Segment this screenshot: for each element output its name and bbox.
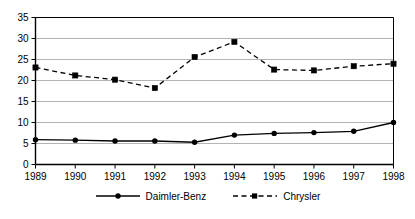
x-tick-label: 1997 bbox=[334, 172, 374, 182]
y-tick-label: 5 bbox=[23, 139, 29, 149]
x-tick-label: 1991 bbox=[95, 172, 135, 182]
legend-swatch bbox=[232, 190, 278, 202]
legend-marker bbox=[252, 193, 257, 198]
legend-marker bbox=[115, 193, 120, 198]
y-tick-label: 35 bbox=[17, 13, 28, 23]
data-point-marker bbox=[351, 129, 356, 134]
data-point-marker bbox=[232, 132, 237, 137]
y-tick-label: 10 bbox=[17, 118, 28, 128]
series-line bbox=[36, 42, 394, 88]
data-point-marker bbox=[351, 64, 356, 69]
data-point-marker bbox=[152, 138, 157, 143]
x-tick-label: 1995 bbox=[254, 172, 294, 182]
y-tick-label: 25 bbox=[17, 55, 28, 65]
data-point-marker bbox=[192, 54, 197, 59]
x-tick-label: 1993 bbox=[175, 172, 215, 182]
legend-entry-daimler-benz[interactable]: Daimler-Benz bbox=[95, 190, 207, 202]
x-tick-label: 1989 bbox=[16, 172, 56, 182]
series-daimler-benz bbox=[33, 120, 396, 145]
data-point-marker bbox=[33, 65, 38, 70]
legend-swatch bbox=[95, 190, 141, 202]
y-tick-label: 15 bbox=[17, 97, 28, 107]
legend-entry-chrysler[interactable]: Chrysler bbox=[232, 190, 320, 202]
gridlines bbox=[36, 18, 394, 144]
data-point-marker bbox=[311, 130, 316, 135]
line-chart: 05101520253035 1989199019911992199319941… bbox=[0, 0, 415, 219]
data-point-marker bbox=[33, 137, 38, 142]
data-point-marker bbox=[73, 137, 78, 142]
data-point-marker bbox=[311, 68, 316, 73]
legend-label: Daimler-Benz bbox=[146, 191, 207, 202]
chart-legend: Daimler-BenzChrysler bbox=[0, 190, 415, 202]
series-line bbox=[36, 123, 394, 143]
data-point-marker bbox=[271, 131, 276, 136]
y-tick-label: 20 bbox=[17, 76, 28, 86]
plot-frame bbox=[36, 18, 394, 165]
data-point-marker bbox=[192, 140, 197, 145]
data-point-marker bbox=[272, 67, 277, 72]
series-chrysler bbox=[33, 39, 396, 90]
x-tick-label: 1998 bbox=[374, 172, 414, 182]
data-point-marker bbox=[112, 77, 117, 82]
x-tick-label: 1992 bbox=[135, 172, 175, 182]
data-point-marker bbox=[152, 85, 157, 90]
data-point-marker bbox=[391, 120, 396, 125]
legend-label: Chrysler bbox=[283, 191, 320, 202]
data-point-marker bbox=[112, 138, 117, 143]
data-series-layer bbox=[33, 39, 396, 145]
y-tick-label: 0 bbox=[23, 160, 29, 170]
data-point-marker bbox=[391, 61, 396, 66]
data-point-marker bbox=[73, 73, 78, 78]
y-tick-label: 30 bbox=[17, 34, 28, 44]
data-point-marker bbox=[232, 39, 237, 44]
x-tick-label: 1994 bbox=[214, 172, 254, 182]
x-tick-label: 1996 bbox=[294, 172, 334, 182]
plot-area bbox=[0, 0, 415, 219]
x-tick-label: 1990 bbox=[55, 172, 95, 182]
